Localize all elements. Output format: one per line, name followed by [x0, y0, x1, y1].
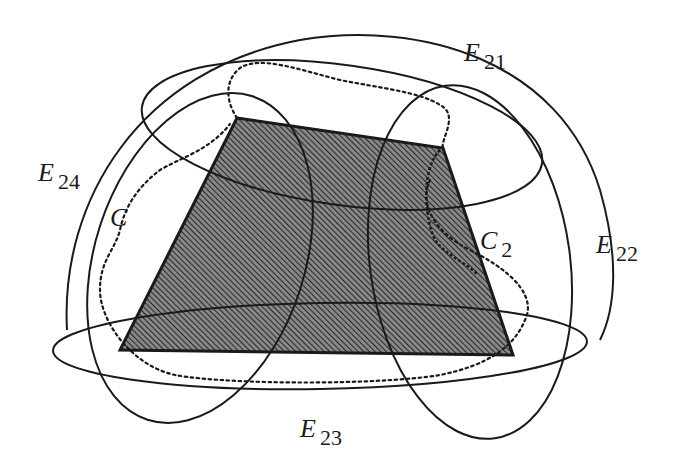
label-c2-sub: 2	[501, 237, 512, 262]
label-e22-main: E	[596, 230, 612, 259]
diagram-canvas	[0, 0, 674, 474]
label-e23-sub: 23	[320, 425, 342, 450]
label-c2-main: C	[480, 226, 497, 255]
label-e21-main: E	[464, 38, 480, 67]
label-e23-main: E	[300, 414, 316, 443]
label-e21-sub: 21	[484, 49, 506, 74]
label-e22-sub: 22	[616, 241, 638, 266]
shaded-region	[120, 118, 513, 355]
label-c-main: C	[110, 203, 127, 232]
label-e23: E23	[300, 416, 342, 442]
label-e24-main: E	[38, 158, 54, 187]
label-c2: C2	[480, 228, 512, 254]
label-c: C	[110, 205, 127, 231]
label-e21: E21	[464, 40, 506, 66]
label-e22: E22	[596, 232, 638, 258]
label-e24: E24	[38, 160, 80, 186]
label-e24-sub: 24	[58, 169, 80, 194]
